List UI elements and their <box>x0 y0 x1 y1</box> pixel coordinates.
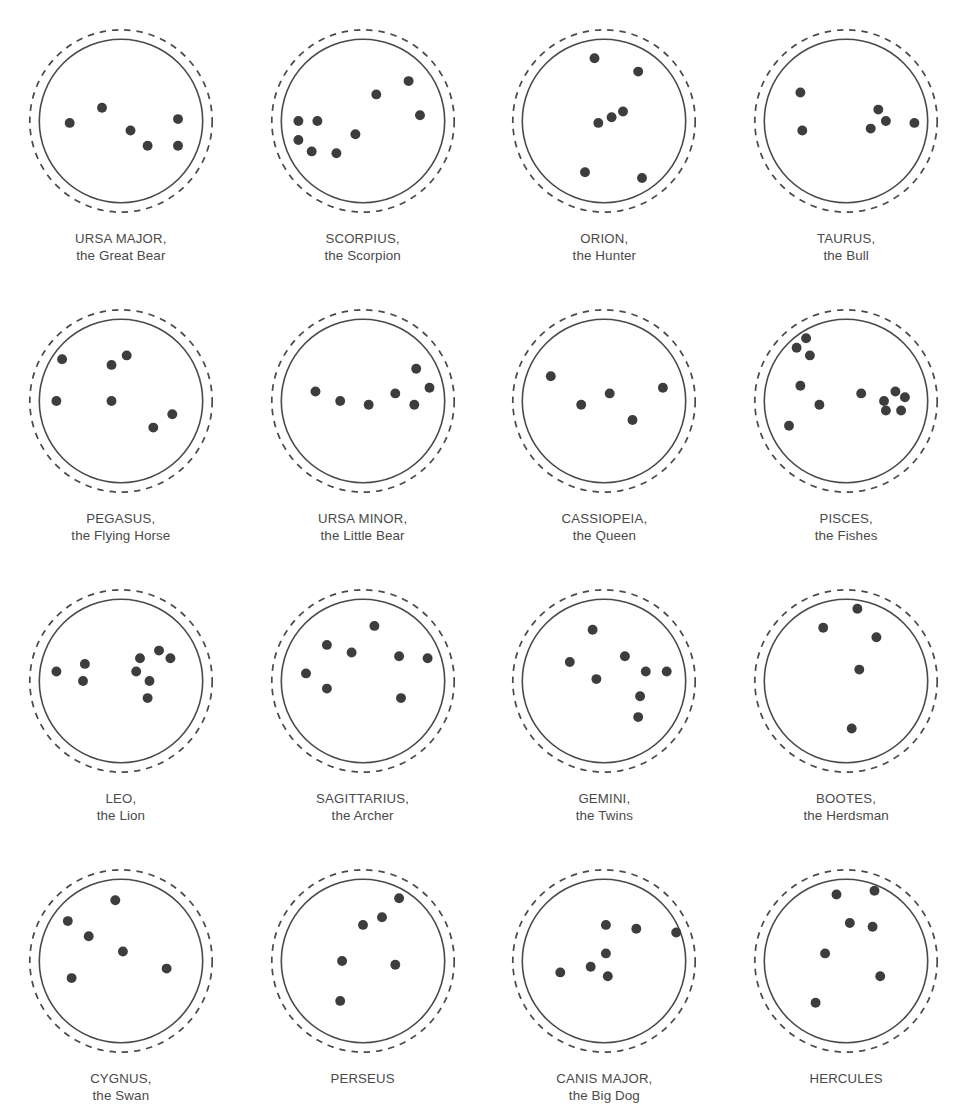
star-dot <box>872 632 882 642</box>
star-dot <box>154 646 164 656</box>
star-dot <box>636 691 646 701</box>
star-dot <box>394 893 404 903</box>
star-dot <box>590 53 600 63</box>
star-dot <box>601 948 611 958</box>
star-dot <box>322 684 332 694</box>
star-dot <box>84 931 94 941</box>
star-dot <box>143 693 153 703</box>
constellation-cell-hercules: HERCULES <box>725 840 967 1120</box>
star-dot <box>845 918 855 928</box>
star-field-canis-major <box>509 866 699 1056</box>
star-dot <box>135 653 145 663</box>
constellation-cell-cygnus: CYGNUS,the Swan <box>0 840 242 1120</box>
star-dot <box>556 967 566 977</box>
constellation-cell-scorpius: SCORPIUS,the Scorpion <box>242 0 484 280</box>
constellation-chart-sheet: URSA MAJOR,the Great BearSCORPIUS,the Sc… <box>0 0 967 1120</box>
star-dot <box>588 625 598 635</box>
star-dot <box>832 890 842 900</box>
star-disk-taurus <box>751 26 941 216</box>
star-field-pisces <box>751 306 941 496</box>
star-dot <box>106 360 116 370</box>
star-disk-orion <box>509 26 699 216</box>
star-dot <box>820 948 830 958</box>
star-dot <box>637 173 647 183</box>
star-dot <box>57 354 67 364</box>
star-dot <box>565 657 575 667</box>
inner-solid-ring <box>764 599 927 762</box>
star-dot <box>148 423 158 433</box>
constellation-name: TAURUS, <box>817 230 875 247</box>
star-dot <box>672 928 682 938</box>
constellation-common-name: the Lion <box>97 807 145 825</box>
constellation-name: HERCULES <box>809 1070 882 1087</box>
constellation-common-name: the Fishes <box>815 527 878 545</box>
constellation-caption-perseus: PERSEUS <box>330 1070 394 1087</box>
constellation-caption-leo: LEO,the Lion <box>97 790 145 825</box>
constellation-caption-cygnus: CYGNUS,the Swan <box>90 1070 151 1105</box>
star-field-bootes <box>751 586 941 776</box>
star-field-hercules <box>751 866 941 1056</box>
constellation-common-name: the Great Bear <box>75 247 167 265</box>
constellation-caption-cassiopeia: CASSIOPEIA,the Queen <box>562 510 648 545</box>
constellation-name: URSA MAJOR, <box>75 230 167 247</box>
inner-solid-ring <box>39 879 202 1042</box>
star-dot <box>801 333 811 343</box>
star-dot <box>601 920 611 930</box>
star-field-ursa-major <box>26 26 216 216</box>
star-disk-leo <box>26 586 216 776</box>
star-dot <box>51 396 61 406</box>
star-dot <box>805 350 815 360</box>
constellation-cell-bootes: BOOTES,the Herdsman <box>725 560 967 840</box>
star-dot <box>658 383 668 393</box>
constellation-common-name: the Twins <box>576 807 633 825</box>
star-dot <box>632 924 642 934</box>
star-dot <box>641 667 651 677</box>
constellation-cell-orion: ORION,the Hunter <box>484 0 726 280</box>
inner-solid-ring <box>523 879 686 1042</box>
star-dot <box>390 960 400 970</box>
star-field-orion <box>509 26 699 216</box>
star-dot <box>335 396 345 406</box>
star-dot <box>881 116 891 126</box>
constellation-caption-bootes: BOOTES,the Herdsman <box>803 790 888 825</box>
star-dot <box>896 406 906 416</box>
star-field-cassiopeia <box>509 306 699 496</box>
star-dot <box>900 392 910 402</box>
star-dot <box>875 971 885 981</box>
star-dot <box>67 973 77 983</box>
star-dot <box>306 146 316 156</box>
star-disk-scorpius <box>268 26 458 216</box>
star-dot <box>165 653 175 663</box>
star-dot <box>78 676 88 686</box>
star-dot <box>422 653 432 663</box>
star-field-ursa-minor <box>268 306 458 496</box>
star-dot <box>891 387 901 397</box>
star-dot <box>868 922 878 932</box>
star-dot <box>811 998 821 1008</box>
star-dot <box>607 112 617 122</box>
star-dot <box>634 67 644 77</box>
star-dot <box>51 667 61 677</box>
star-dot <box>293 135 303 145</box>
constellation-name: SAGITTARIUS, <box>316 790 409 807</box>
inner-solid-ring <box>764 39 927 202</box>
constellation-common-name: the Flying Horse <box>71 527 170 545</box>
constellation-caption-ursa-minor: URSA MINOR,the Little Bear <box>318 510 407 545</box>
star-dot <box>322 640 332 650</box>
star-field-leo <box>26 586 216 776</box>
star-dot <box>143 141 153 151</box>
star-dot <box>63 916 73 926</box>
star-dot <box>866 124 876 134</box>
constellation-common-name: the Queen <box>562 527 648 545</box>
star-dot <box>377 912 387 922</box>
star-dot <box>603 971 613 981</box>
star-disk-cassiopeia <box>509 306 699 496</box>
inner-solid-ring <box>523 599 686 762</box>
star-dot <box>873 105 883 115</box>
star-dot <box>358 920 368 930</box>
star-dot <box>856 388 866 398</box>
constellation-name: GEMINI, <box>576 790 633 807</box>
constellation-cell-canis-major: CANIS MAJOR,the Big Dog <box>484 840 726 1120</box>
constellation-caption-taurus: TAURUS,the Bull <box>817 230 875 265</box>
star-field-pegasus <box>26 306 216 496</box>
